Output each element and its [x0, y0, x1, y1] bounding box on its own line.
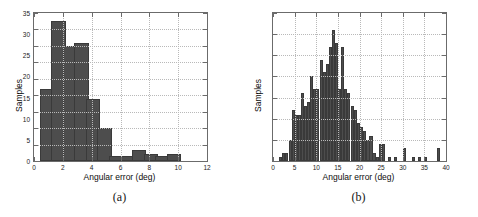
- histogram-bar: [394, 157, 397, 161]
- y-axis-tick: [203, 145, 207, 146]
- chart-panel-a: 0102030405060708090 024681012 Samples An…: [0, 0, 239, 217]
- x-axis-tick: [424, 157, 425, 161]
- gridline-vertical: [316, 13, 317, 161]
- x-tick-label: 4: [90, 164, 94, 171]
- gridline-vertical: [338, 13, 339, 161]
- x-axis-tick: [316, 13, 317, 17]
- x-axis-tick: [316, 157, 317, 161]
- y-axis-tick: [203, 112, 207, 113]
- x-axis-tick: [446, 13, 447, 17]
- histogram-bar: [437, 148, 440, 161]
- y-axis-tick: [442, 76, 446, 77]
- histogram-bar: [382, 144, 385, 161]
- x-tick-label: 20: [356, 164, 363, 171]
- gridline-vertical: [92, 13, 93, 161]
- gridline-vertical: [295, 13, 296, 161]
- gridline-vertical: [424, 13, 425, 161]
- x-tick-label: 10: [313, 164, 320, 171]
- x-axis-tick: [178, 157, 179, 161]
- figure-panels: 0102030405060708090 024681012 Samples An…: [0, 0, 478, 217]
- x-axis-tick: [92, 13, 93, 17]
- x-axis-tick: [403, 13, 404, 17]
- y-axis-tick: [34, 46, 38, 47]
- x-axis-tick: [381, 13, 382, 17]
- x-axis-tick: [34, 13, 35, 17]
- x-tick-label: 15: [334, 164, 341, 171]
- x-tick-label: 0: [32, 164, 36, 171]
- x-tick-label: 5: [293, 164, 297, 171]
- y-axis-title-b: Samples: [253, 79, 263, 112]
- x-axis-tick: [273, 13, 274, 17]
- y-axis-tick: [273, 161, 277, 162]
- histogram-bar: [388, 157, 391, 161]
- x-axis-title-a: Angular error (deg): [0, 172, 239, 182]
- axes-frame-a: [33, 12, 208, 162]
- y-axis-tick: [203, 161, 207, 162]
- x-tick-label: 6: [119, 164, 123, 171]
- x-tick-label: 2: [61, 164, 65, 171]
- x-axis-tick: [121, 13, 122, 17]
- y-axis-tick: [34, 112, 38, 113]
- x-axis-tick: [295, 13, 296, 17]
- histogram-bar: [418, 157, 421, 161]
- x-tick-label: 12: [203, 164, 210, 171]
- x-axis-tick: [34, 157, 35, 161]
- x-tick-label: 8: [148, 164, 152, 171]
- y-tick-label: 30: [23, 31, 30, 38]
- y-axis-tick: [273, 55, 277, 56]
- histogram-bar: [412, 157, 415, 161]
- x-tick-label: 25: [378, 164, 385, 171]
- x-axis-tick: [360, 157, 361, 161]
- gridline-vertical: [121, 13, 122, 161]
- x-axis-tick: [446, 157, 447, 161]
- x-axis-tick: [338, 13, 339, 17]
- y-axis-tick: [203, 62, 207, 63]
- x-axis-tick: [338, 157, 339, 161]
- y-axis-tick: [442, 161, 446, 162]
- y-tick-label: 0: [26, 158, 30, 165]
- y-axis-tick: [34, 29, 38, 30]
- gridline-vertical: [63, 13, 64, 161]
- x-axis-tick: [360, 13, 361, 17]
- panel-caption-a: (a): [0, 190, 239, 205]
- x-axis-tick: [295, 157, 296, 161]
- y-axis-tick: [442, 55, 446, 56]
- x-axis-tick: [92, 157, 93, 161]
- y-axis-tick: [34, 95, 38, 96]
- chart-panel-b: 05101520253035 0510152025303540 Samples …: [239, 0, 478, 217]
- y-axis-tick: [203, 79, 207, 80]
- y-axis-tick: [273, 76, 277, 77]
- y-tick-label: 5: [26, 136, 30, 143]
- y-axis-tick: [34, 145, 38, 146]
- gridline-vertical: [381, 13, 382, 161]
- y-axis-tick: [273, 119, 277, 120]
- y-axis-tick: [273, 34, 277, 35]
- x-axis-tick: [178, 13, 179, 17]
- x-tick-label: 40: [442, 164, 449, 171]
- plot-area-b: 05101520253035 0510152025303540: [239, 0, 478, 186]
- x-axis-tick: [149, 13, 150, 17]
- x-tick-label: 10: [175, 164, 182, 171]
- x-axis-title-b: Angular error (deg): [239, 172, 478, 182]
- y-axis-tick: [34, 128, 38, 129]
- y-tick-label: 20: [23, 73, 30, 80]
- gridline-vertical: [149, 13, 150, 161]
- x-axis-tick: [63, 157, 64, 161]
- x-axis-tick: [63, 13, 64, 17]
- plot-area-a: 0102030405060708090 024681012: [0, 0, 239, 186]
- x-tick-label: 30: [399, 164, 406, 171]
- gridline-vertical: [360, 13, 361, 161]
- y-tick-label: 10: [23, 115, 30, 122]
- y-axis-tick: [442, 34, 446, 35]
- axes-frame-b: [272, 12, 447, 162]
- x-tick-label: 35: [421, 164, 428, 171]
- y-axis-tick: [34, 161, 38, 162]
- x-axis-tick: [207, 157, 208, 161]
- y-axis-tick: [203, 95, 207, 96]
- x-axis-tick: [207, 13, 208, 17]
- gridline-vertical: [403, 13, 404, 161]
- x-axis-tick: [403, 157, 404, 161]
- y-axis-tick: [34, 79, 38, 80]
- x-axis-tick: [149, 157, 150, 161]
- y-axis-tick: [203, 46, 207, 47]
